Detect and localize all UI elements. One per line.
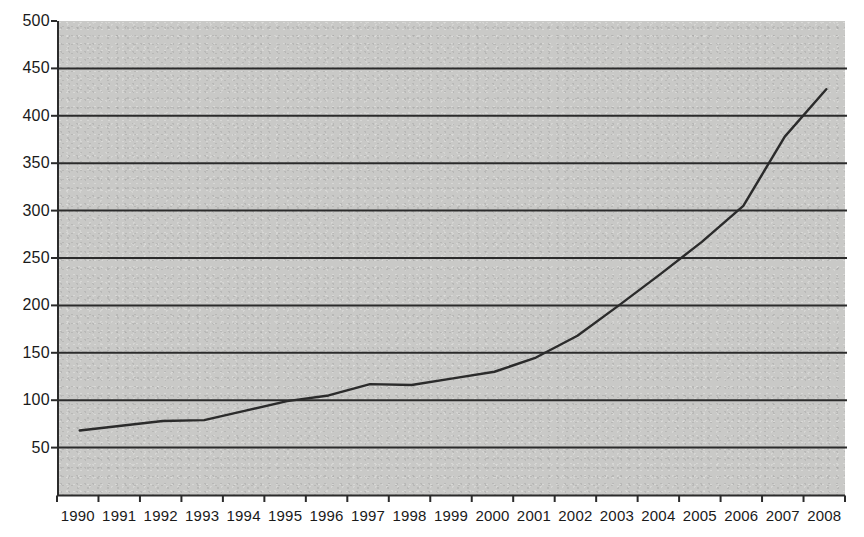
y-axis: 50100150200250300350400450500 [0, 0, 50, 537]
y-tick-label-500: 500 [6, 12, 50, 30]
x-tick-label-2003: 2003 [600, 507, 634, 524]
x-axis-ticks [57, 496, 845, 503]
x-tick-label-1994: 1994 [227, 507, 261, 524]
x-tick-label-1996: 1996 [309, 507, 343, 524]
y-tick-label-300: 300 [6, 202, 50, 220]
x-tick-label-1991: 1991 [102, 507, 136, 524]
y-tick-label-100: 100 [6, 391, 50, 409]
data-series-group [80, 89, 827, 430]
x-tick-label-1998: 1998 [392, 507, 426, 524]
plot-area [57, 21, 845, 495]
x-tick-label-2005: 2005 [683, 507, 717, 524]
line-chart: 50100150200250300350400450500 1990199119… [0, 0, 864, 537]
x-tick-label-2007: 2007 [766, 507, 800, 524]
data-line [80, 89, 827, 430]
x-tick-label-1990: 1990 [61, 507, 95, 524]
x-tick-label-1995: 1995 [268, 507, 302, 524]
y-tick-label-250: 250 [6, 249, 50, 267]
x-tick-label-2004: 2004 [641, 507, 675, 524]
plot-svg [59, 21, 847, 495]
x-tick-label-2000: 2000 [475, 507, 509, 524]
x-axis: 1990199119921993199419951996199719981999… [0, 503, 864, 529]
x-tick-label-2001: 2001 [517, 507, 551, 524]
x-tick-label-2002: 2002 [558, 507, 592, 524]
y-tick-label-350: 350 [6, 154, 50, 172]
y-tick-label-400: 400 [6, 107, 50, 125]
x-tick-label-1997: 1997 [351, 507, 385, 524]
gridlines [59, 68, 847, 447]
y-tick-label-450: 450 [6, 59, 50, 77]
x-tick-label-2006: 2006 [724, 507, 758, 524]
x-tick-label-2008: 2008 [807, 507, 841, 524]
y-tick-label-200: 200 [6, 296, 50, 314]
x-tick-label-1999: 1999 [434, 507, 468, 524]
y-tick-label-50: 50 [6, 439, 50, 457]
y-tick-label-150: 150 [6, 344, 50, 362]
x-tick-label-1993: 1993 [185, 507, 219, 524]
x-tick-label-1992: 1992 [144, 507, 178, 524]
